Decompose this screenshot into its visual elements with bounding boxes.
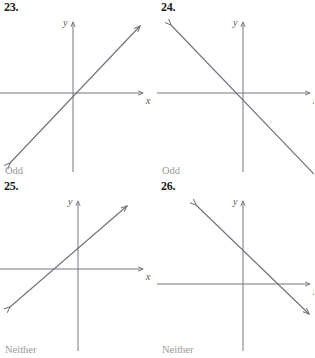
answer-label-24: Odd bbox=[162, 165, 180, 177]
y-axis-label-23: y bbox=[62, 17, 68, 28]
y-axis-label-24: y bbox=[232, 17, 238, 28]
answer-label-25: Neither bbox=[5, 344, 37, 356]
graph-26: x y bbox=[157, 179, 314, 358]
function-line-23 bbox=[10, 26, 140, 163]
problem-panel-24: 24. x y Odd bbox=[157, 0, 314, 179]
x-axis-label-26: x bbox=[312, 286, 314, 297]
graph-24: x y bbox=[157, 0, 314, 179]
y-axis-label-26: y bbox=[232, 196, 238, 207]
x-axis-label-23: x bbox=[145, 95, 151, 106]
function-line-26 bbox=[196, 205, 309, 314]
graph-25: x y bbox=[0, 179, 157, 358]
answer-label-23: Odd bbox=[5, 165, 23, 177]
function-line-25 bbox=[10, 206, 127, 307]
problem-panel-23: 23. x y Odd bbox=[0, 0, 157, 179]
graph-23: x y bbox=[0, 0, 157, 179]
x-axis-label-25: x bbox=[145, 271, 151, 282]
answer-label-26: Neither bbox=[162, 344, 194, 356]
y-axis-label-25: y bbox=[67, 196, 73, 207]
x-axis-label-24: x bbox=[312, 95, 314, 106]
problem-panel-25: 25. x y Neither bbox=[0, 179, 157, 358]
problem-panel-26: 26. x y Neither bbox=[157, 179, 314, 358]
